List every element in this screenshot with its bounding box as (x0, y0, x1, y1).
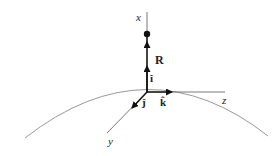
x-axis-label: x (135, 11, 141, 23)
r-vector-label: R (155, 53, 164, 67)
i-hat-label: î (149, 72, 154, 84)
y-axis-label: y (107, 135, 113, 147)
curved-surface (25, 89, 268, 138)
position-point (144, 31, 150, 37)
coordinate-diagram: x R î ĵ k̂ z y (0, 0, 280, 156)
z-axis-label: z (221, 94, 227, 106)
j-hat-label: ĵ (141, 96, 146, 108)
k-hat-label: k̂ (160, 96, 167, 108)
